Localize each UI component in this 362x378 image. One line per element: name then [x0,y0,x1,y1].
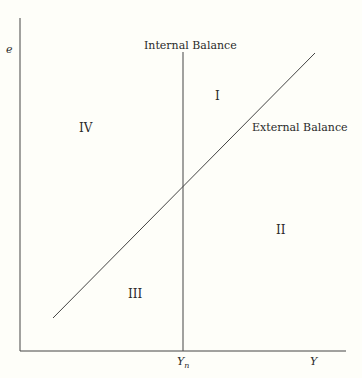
x-tick-label-yn: Yn [177,356,189,370]
region-label-III: III [128,288,142,300]
y-axis-label: e [6,44,13,55]
region-label-II: II [276,224,285,236]
x-tick-subscript: n [184,361,189,370]
external-balance-label: External Balance [252,122,348,133]
x-axis-label: Y [310,356,317,367]
internal-balance-label: Internal Balance [144,40,237,51]
external-balance-line [53,53,315,318]
diagram-canvas [0,0,362,378]
region-label-I: I [215,90,220,102]
region-label-IV: IV [79,122,92,134]
